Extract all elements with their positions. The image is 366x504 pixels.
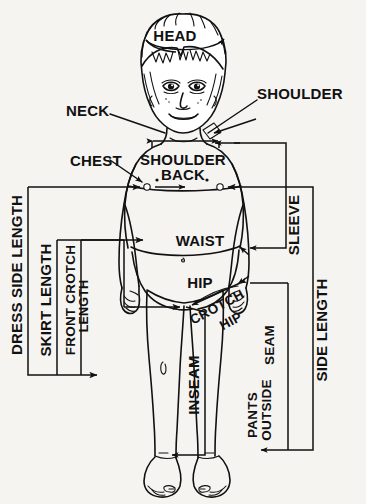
label-shoulder-back-line2: BACK (161, 166, 205, 183)
label-pants-outside-line3: SEAM (262, 325, 277, 365)
label-side-length: SIDE LENGTH (313, 278, 330, 381)
label-front-crotch-line1: FRONT CROTCH (63, 245, 78, 355)
label-dress-side-length: DRESS SIDE LENGTH (8, 195, 25, 355)
label-chest: CHEST (70, 152, 122, 169)
label-shoulder: SHOULDER (257, 85, 343, 102)
measurement-diagram: HEAD NECK SHOULDER CHEST SHOULDER BACK W… (0, 0, 366, 504)
label-inseam: INSEAM (185, 355, 202, 415)
label-head: HEAD (153, 27, 196, 44)
label-sleeve: SLEEVE (285, 195, 302, 255)
label-front-crotch-line2: LENGTH (77, 280, 91, 333)
label-neck: NECK (66, 102, 109, 119)
label-waist: WAIST (176, 232, 225, 249)
label-pants-outside-line1: PANTS (245, 392, 260, 438)
label-pants-outside-line2: OUTSIDE (259, 379, 274, 440)
diagram-canvas: HEAD NECK SHOULDER CHEST SHOULDER BACK W… (0, 0, 366, 504)
label-hip: HIP (187, 274, 213, 291)
label-skirt-length: SKIRT LENGTH (37, 243, 54, 356)
